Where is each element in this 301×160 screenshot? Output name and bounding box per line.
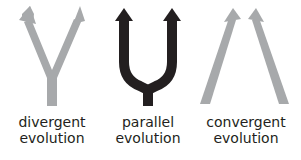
parallel-label-line2: evolution <box>98 130 198 146</box>
divergent-arrow-icon <box>19 6 85 106</box>
divergent-label-line2: evolution <box>2 130 102 146</box>
parallel-label-line1: parallel <box>98 114 198 130</box>
convergent-label: convergent evolution <box>196 114 296 146</box>
divergent-label: divergent evolution <box>2 114 102 146</box>
parallel-label: parallel evolution <box>98 114 198 146</box>
convergent-label-line1: convergent <box>196 114 296 130</box>
divergent-label-line1: divergent <box>2 114 102 130</box>
convergent-arrow-icon <box>200 8 289 104</box>
parallel-arrow-icon <box>115 8 181 106</box>
convergent-label-line2: evolution <box>196 130 296 146</box>
